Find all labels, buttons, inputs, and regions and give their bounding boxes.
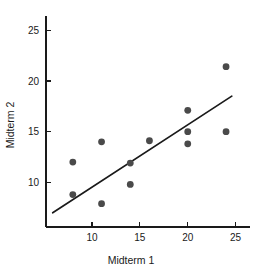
x-tick-label: 25 <box>230 232 242 243</box>
regression-line <box>53 96 232 213</box>
data-point <box>127 181 134 188</box>
data-point <box>69 191 76 198</box>
y-tick-label: 20 <box>28 76 40 87</box>
x-tick-label: 20 <box>182 232 194 243</box>
data-point <box>184 107 191 114</box>
data-point <box>223 63 230 70</box>
data-point <box>69 159 76 166</box>
plot-canvas: 1015202510152025 Midterm 1 Midterm 2 <box>0 0 262 272</box>
data-point <box>98 138 105 145</box>
data-point <box>184 128 191 135</box>
tick-labels-group: 1015202510152025 <box>28 25 242 243</box>
y-tick-label: 25 <box>28 25 40 36</box>
data-point <box>127 160 134 167</box>
data-point <box>223 128 230 135</box>
y-axis-title: Midterm 2 <box>4 102 16 149</box>
x-axis-title: Midterm 1 <box>108 254 155 266</box>
x-tick-label: 10 <box>86 232 98 243</box>
y-tick-label: 15 <box>28 126 40 137</box>
data-point <box>184 140 191 147</box>
y-tick-label: 10 <box>28 177 40 188</box>
axes-group <box>46 16 250 227</box>
data-point <box>146 137 153 144</box>
regression-line-group <box>53 96 232 213</box>
x-tick-label: 15 <box>134 232 146 243</box>
scatter-plot-figure: 1015202510152025 Midterm 1 Midterm 2 <box>0 0 262 272</box>
data-point <box>98 200 105 207</box>
